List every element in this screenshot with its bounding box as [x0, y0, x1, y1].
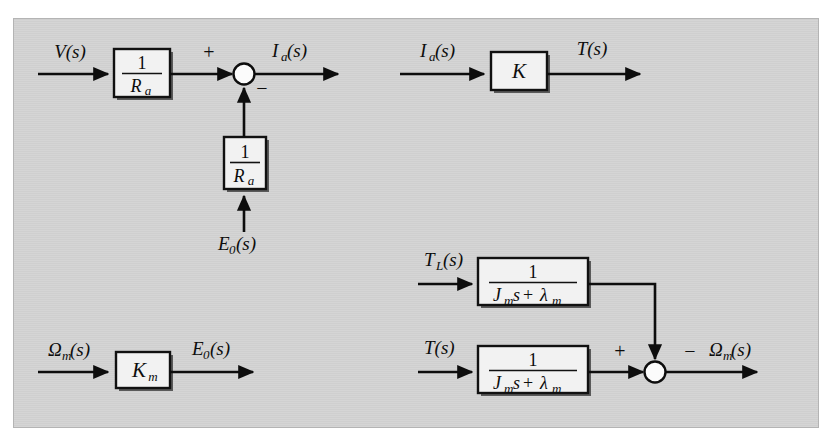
block-load-bottom-den-jsub: m — [504, 381, 513, 396]
label-input-tl: T L (s) — [424, 249, 463, 273]
label-output-omega-main: Ω — [709, 339, 723, 360]
block-load-top-den-plus: + — [523, 285, 533, 305]
label-input-ia-torque: I a (s) — [419, 40, 455, 64]
label-output-omega: Ω m (s) — [709, 339, 751, 363]
sign-minus-speed-junction: − — [684, 340, 695, 362]
sign-plus-armature-junction: + — [203, 41, 214, 63]
block-diagram-canvas: 1 R a 1 R a V(s) I a — [0, 0, 835, 446]
label-feedback-e0-paren: (s) — [236, 233, 256, 255]
label-output-e0-paren: (s) — [210, 338, 230, 360]
label-output-e0-backemf: E 0 (s) — [191, 338, 230, 362]
subdiagram-torque-gain: K I a (s) T(s) — [400, 38, 640, 93]
label-input-omega-main: Ω — [48, 339, 62, 360]
block-load-top-den-lambdasub: m — [552, 293, 561, 308]
sign-minus-armature-junction: − — [256, 77, 267, 99]
subdiagram-mechanical-load: 1 J m s + λ m T L (s) 1 — [418, 249, 757, 396]
label-input-ia-main: I — [419, 40, 428, 61]
block-load-top-den-s: s — [513, 285, 520, 305]
block-load-bottom-den-s: s — [513, 373, 520, 393]
summing-junction-armature — [234, 64, 255, 85]
block-forward-ra-denominator-r: R — [130, 76, 142, 96]
block-load-top-den-lambda: λ — [539, 285, 548, 305]
label-input-tl-paren: (s) — [443, 249, 463, 271]
summing-junction-speed — [645, 362, 666, 383]
sign-plus-speed-junction: + — [614, 340, 625, 362]
label-output-ia-paren: (s) — [287, 40, 307, 62]
label-input-omega-paren: (s) — [70, 339, 90, 361]
subdiagram-back-emf: K m Ω m (s) E 0 (s) — [38, 338, 253, 391]
label-input-tl-sub: L — [435, 258, 443, 273]
block-load-top-den-j: J — [493, 285, 502, 305]
label-input-ia-paren: (s) — [435, 40, 455, 62]
label-feedback-e0: E 0 (s) — [217, 233, 256, 257]
block-load-bottom-den-lambdasub: m — [552, 381, 561, 396]
block-load-bottom-den-j: J — [493, 373, 502, 393]
label-input-t: T(s) — [424, 337, 455, 359]
label-output-ia: I a (s) — [271, 40, 307, 64]
subdiagram-armature-circuit: 1 R a 1 R a V(s) I a — [38, 40, 338, 257]
block-load-top-numerator: 1 — [529, 262, 538, 282]
label-output-t: T(s) — [577, 38, 608, 60]
block-feedback-ra-denominator-r: R — [233, 166, 245, 186]
label-output-e0-sub: 0 — [203, 347, 210, 362]
block-km-label-sub: m — [148, 369, 157, 384]
block-forward-ra-denominator-sub: a — [145, 83, 152, 98]
block-load-top-den-jsub: m — [504, 293, 513, 308]
block-km-label-main: K — [131, 358, 147, 382]
block-forward-ra-numerator: 1 — [138, 53, 147, 73]
figure-page: 1 R a 1 R a V(s) I a — [0, 0, 835, 446]
block-load-bottom-numerator: 1 — [529, 350, 538, 370]
label-input-vs: V(s) — [54, 41, 86, 63]
label-input-omega-backemf: Ω m (s) — [48, 339, 90, 363]
block-load-bottom-den-plus: + — [523, 373, 533, 393]
block-feedback-ra-numerator: 1 — [241, 142, 250, 162]
label-output-omega-paren: (s) — [731, 339, 751, 361]
block-k-label: K — [511, 59, 527, 83]
block-load-bottom-den-lambda: λ — [539, 373, 548, 393]
label-output-ia-main: I — [271, 40, 280, 61]
block-feedback-ra-denominator-sub: a — [248, 173, 255, 188]
label-feedback-e0-sub: 0 — [229, 242, 236, 257]
label-input-tl-main: T — [424, 249, 436, 270]
